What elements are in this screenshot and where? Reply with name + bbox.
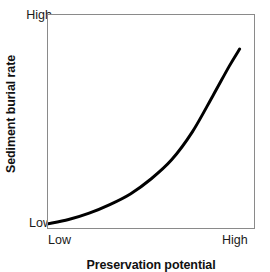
y-axis-title: Sediment burial rate [0, 0, 22, 228]
x-axis-title: Preservation potential [47, 258, 255, 272]
x-axis-tick-low: Low [48, 233, 71, 247]
y-axis-tick-low: Low [8, 216, 52, 230]
x-axis-tick-high: High [222, 233, 248, 247]
y-axis-tick-high: High [8, 8, 52, 22]
y-axis-title-text: Sediment burial rate [4, 55, 18, 173]
curve-svg [48, 15, 254, 228]
plot-area [47, 14, 255, 229]
exponential-curve [48, 49, 240, 224]
